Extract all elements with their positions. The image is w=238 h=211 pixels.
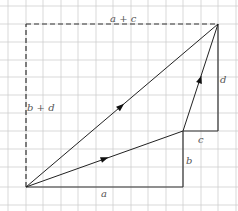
label-a-plus-c: a + c (110, 13, 137, 24)
vector-diagram: a + c b + d d c b a (0, 0, 238, 211)
label-b: b (186, 155, 192, 166)
labels: a + c b + d d c b a (27, 13, 226, 199)
label-c: c (198, 134, 204, 145)
arrowheads (100, 74, 204, 162)
arrowhead-icon (100, 154, 110, 162)
label-a: a (101, 188, 107, 199)
label-d: d (220, 74, 226, 85)
arrowhead-icon (196, 74, 204, 83)
label-b-plus-d: b + d (27, 102, 55, 113)
